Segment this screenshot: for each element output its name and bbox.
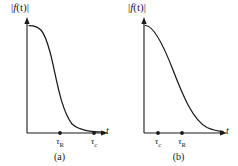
panel-b-tick-label-tau-r: τR xyxy=(174,137,190,148)
panel-a-tick-mark-tau-r xyxy=(58,131,62,135)
panel-a-tick-label-tau-r-subscript: R xyxy=(59,141,63,148)
panel-a-x-axis-label: t xyxy=(106,126,109,136)
panel-b-tick-mark-tau-r xyxy=(180,131,184,135)
panel-b-tick-label-tau-c-subscript: c xyxy=(158,141,161,148)
panel-b: |f(t)| τc τR t (b) xyxy=(119,0,238,166)
panel-b-tick-label-tau-c: τc xyxy=(150,137,166,148)
panel-a-tick-label-tau-r: τR xyxy=(52,137,68,148)
panel-a-y-axis-arrowhead xyxy=(24,17,29,24)
panel-b-caption: (b) xyxy=(119,152,238,162)
panel-a-tick-mark-tau-c xyxy=(92,131,96,135)
panel-b-tick-label-tau-r-subscript: R xyxy=(181,141,185,148)
panel-b-decay-curve xyxy=(146,26,224,132)
panel-b-y-axis-arrowhead xyxy=(141,17,146,24)
panel-a-tick-label-tau-c-subscript: c xyxy=(94,141,97,148)
panel-a-decay-curve xyxy=(29,26,104,133)
panel-a-tick-label-tau-c: τc xyxy=(86,137,102,148)
panel-b-tick-mark-tau-c xyxy=(156,131,160,135)
panel-b-x-axis-label: t xyxy=(226,126,229,136)
panel-a: |f(t)| τR τc t (a) xyxy=(0,0,119,166)
figure-container: |f(t)| τR τc t (a) |f(t)| xyxy=(0,0,238,166)
panel-a-caption: (a) xyxy=(0,152,119,162)
